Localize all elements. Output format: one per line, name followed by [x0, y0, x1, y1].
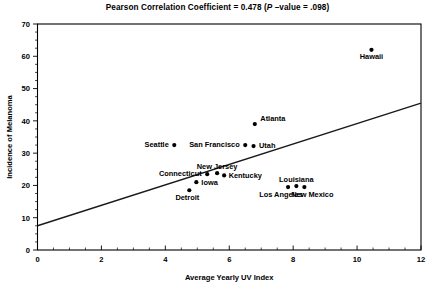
data-point [187, 188, 191, 192]
data-point [286, 185, 290, 189]
y-axis-tick-label: 40 [22, 117, 30, 126]
data-point [172, 143, 176, 147]
plot-canvas: 024681012010203040506070HawaiiAtlantaSea… [0, 0, 435, 292]
data-point-label: Hawaii [360, 52, 383, 61]
data-point-label: New Mexico [291, 190, 334, 199]
y-axis-tick-label: 0 [26, 246, 30, 255]
x-axis-tick-label: 6 [227, 255, 231, 264]
data-point-label: New Jersey [197, 162, 239, 171]
data-point [205, 172, 209, 176]
y-axis-tick-label: 50 [22, 84, 30, 93]
x-axis-tick-label: 8 [291, 255, 295, 264]
x-axis-tick-label: 12 [417, 255, 425, 264]
data-point [294, 184, 298, 188]
data-point-label: Connecticut [159, 169, 202, 178]
data-point [251, 144, 255, 148]
data-point-label: San Francisco [189, 140, 240, 149]
x-axis-tick-label: 0 [35, 255, 39, 264]
y-axis-tick-label: 10 [22, 214, 30, 223]
data-point-label: Louisiana [279, 175, 314, 184]
data-point [243, 143, 247, 147]
y-axis-title: Incidence of Melanoma [5, 94, 14, 178]
data-point [194, 180, 198, 184]
data-point-label: Atlanta [260, 114, 286, 123]
x-axis-tick-label: 10 [353, 255, 361, 264]
data-point-label: Iowa [201, 178, 218, 187]
data-point [302, 185, 306, 189]
data-point-label: Kentucky [229, 171, 263, 180]
x-axis-tick-label: 2 [99, 255, 103, 264]
x-axis-title: Average Yearly UV Index [185, 273, 274, 282]
y-axis-tick-label: 70 [22, 20, 30, 29]
y-axis-tick-label: 60 [22, 52, 30, 61]
x-axis-tick-label: 4 [163, 255, 168, 264]
data-point [253, 122, 257, 126]
data-point-label: Seattle [145, 140, 169, 149]
data-point-label: Detroit [175, 193, 199, 202]
data-point [369, 48, 373, 52]
y-axis-tick-label: 30 [22, 149, 30, 158]
data-point-label: Utah [259, 141, 276, 150]
data-point [222, 173, 226, 177]
data-point [215, 171, 219, 175]
y-axis-tick-label: 20 [22, 181, 30, 190]
scatter-plot-figure: Pearson Correlation Coefficient = 0.478 … [0, 0, 435, 292]
